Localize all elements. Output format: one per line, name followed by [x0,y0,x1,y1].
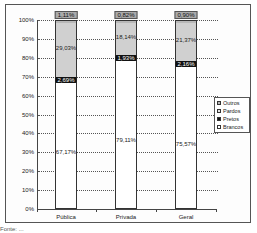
y-tick-label: 10% [0,187,34,193]
y-tick-label: 100% [0,17,34,23]
x-tick [216,209,217,212]
pardos-swatch-icon [217,109,221,113]
y-tick-label: 20% [0,168,34,174]
y-tick-label: 90% [0,36,34,42]
x-tick [37,209,38,212]
outros-swatch-icon [217,101,221,105]
x-label: Privada [116,214,136,220]
legend-item-pretos: Pretos [217,115,247,123]
data-label-outros: 0,90% [174,11,197,19]
x-axis [37,209,217,210]
x-label: Geral [179,214,194,220]
y-tick-label: 60% [0,93,34,99]
data-label-pardos: 18,14% [116,34,136,40]
segment-outros [176,21,196,23]
data-label-outros: 1,11% [55,11,78,19]
x-tick [156,209,157,212]
segment-outros [56,21,76,23]
y-tick-label: 40% [0,130,34,136]
y-tick-label: 30% [0,149,34,155]
segment-brancos [116,60,136,208]
x-tick [96,209,97,212]
y-axis [37,20,38,209]
y-tick-label: 70% [0,74,34,80]
source-note: Fonte: ... [0,226,24,232]
data-label-brancos: 79,11% [116,137,136,143]
y-tick-label: 0% [0,206,34,212]
data-label-brancos: 75,57% [176,141,196,147]
data-label-pretos: 2,69% [55,77,76,83]
data-label-pretos: 1,93% [115,55,136,61]
data-label-outros: 0,82% [114,11,137,19]
data-label-brancos: 67,17% [56,149,76,155]
data-label-pretos: 2,16% [175,61,196,67]
legend: Outros Pardos Pretos Brancos [214,97,250,133]
legend-item-outros: Outros [217,99,247,107]
pretos-swatch-icon [217,117,221,121]
legend-item-pardos: Pardos [217,107,247,115]
segment-brancos [56,82,76,208]
segment-outros [116,21,136,23]
y-tick-label: 50% [0,112,34,118]
bar-privada [115,20,137,209]
y-tick-label: 80% [0,55,34,61]
legend-item-brancos: Brancos [217,123,247,131]
data-label-pardos: 21,37% [176,37,196,43]
data-label-pardos: 29,03% [56,45,76,51]
bar-geral [175,20,197,209]
x-label: Pública [56,214,76,220]
segment-brancos [176,67,196,208]
brancos-swatch-icon [217,125,221,129]
